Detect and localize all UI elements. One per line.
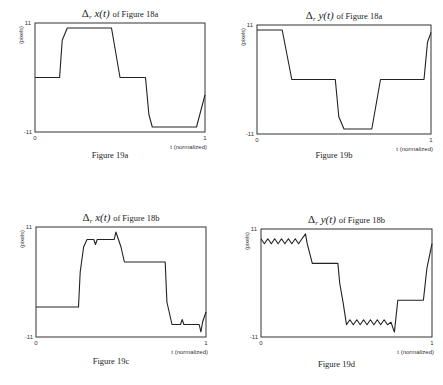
x-tick-max: 1 bbox=[204, 340, 208, 346]
plot-title: Δr y(t) of Figure 18a bbox=[306, 9, 383, 23]
plot-frame bbox=[261, 229, 432, 337]
y-axis-label: (pixels) bbox=[18, 26, 24, 44]
y-tick-min: -11 bbox=[246, 131, 255, 137]
figure-caption: Figure 19b bbox=[315, 150, 352, 160]
data-series-line bbox=[36, 232, 206, 332]
y-axis-label: (pixels) bbox=[244, 232, 250, 250]
data-series-line bbox=[35, 28, 205, 127]
plot-panel-4: Δr y(t) of Figure 18b11-11(pixels)01t (n… bbox=[244, 213, 434, 369]
y-tick-max: 11 bbox=[251, 226, 258, 232]
x-tick-min: 0 bbox=[34, 340, 38, 346]
plot-panel-1: Δr x(t) of Figure 18a11-11(pixels)01t (n… bbox=[18, 7, 207, 160]
y-axis-label: (pixels) bbox=[240, 28, 246, 46]
y-tick-min: -11 bbox=[24, 129, 33, 135]
y-tick-min: -11 bbox=[250, 334, 259, 340]
figure-canvas: Δr x(t) of Figure 18a11-11(pixels)01t (n… bbox=[0, 0, 443, 385]
figure-caption: Figure 19d bbox=[318, 359, 356, 369]
x-tick-max: 1 bbox=[203, 135, 207, 141]
data-series-line bbox=[261, 234, 432, 332]
plot-panel-2: Δr y(t) of Figure 18a11-11(pixels)01t (n… bbox=[240, 9, 433, 160]
figure-caption: Figure 19a bbox=[92, 150, 129, 160]
x-axis-label: t (normalized) bbox=[396, 146, 433, 152]
y-axis-label: (pixels) bbox=[19, 230, 25, 248]
y-tick-max: 11 bbox=[247, 22, 254, 28]
x-tick-min: 0 bbox=[259, 340, 263, 346]
y-tick-max: 11 bbox=[25, 20, 32, 26]
y-tick-min: -11 bbox=[25, 334, 34, 340]
plot-frame bbox=[36, 227, 206, 337]
x-tick-min: 0 bbox=[33, 135, 37, 141]
plot-panel-3: Δr x(t) of Figure 18b11-11(pixels)01t (n… bbox=[19, 211, 208, 366]
x-tick-max: 1 bbox=[429, 137, 433, 143]
x-tick-min: 0 bbox=[255, 137, 259, 143]
x-tick-max: 1 bbox=[430, 340, 434, 346]
plot-title: Δr x(t) of Figure 18b bbox=[83, 211, 160, 225]
data-series-line bbox=[257, 30, 431, 129]
plot-title: Δr x(t) of Figure 18a bbox=[82, 7, 159, 21]
x-axis-label: t (normalized) bbox=[171, 349, 208, 355]
x-axis-label: t (normalized) bbox=[170, 144, 207, 150]
x-axis-label: t (normalized) bbox=[397, 349, 434, 355]
plot-title: Δr y(t) of Figure 18b bbox=[308, 213, 385, 227]
figure-caption: Figure 19c bbox=[93, 356, 130, 366]
y-tick-max: 11 bbox=[26, 224, 33, 230]
